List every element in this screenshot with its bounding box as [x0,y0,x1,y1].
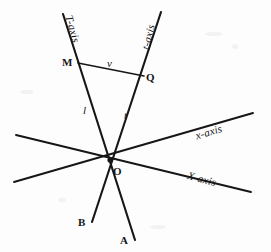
label-point-A: A [120,235,128,246]
line-X-axis [16,135,251,192]
label-segment-v: v [107,58,112,69]
geometry-figure: T-axis t-axis x-axis X-axis M Q O A B v … [0,0,271,252]
label-point-Q: Q [146,72,155,83]
origin-point [107,157,112,162]
label-point-O: O [113,166,122,177]
label-segment-t: t [124,110,127,121]
label-point-B: B [78,217,85,228]
label-point-M: M [62,57,72,68]
label-segment-l: l [83,105,86,116]
diagram-canvas [0,0,271,252]
